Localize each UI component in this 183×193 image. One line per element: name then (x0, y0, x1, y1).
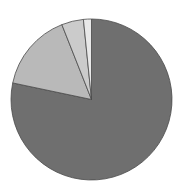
pie-slices (11, 19, 172, 180)
pie-chart (0, 0, 183, 193)
